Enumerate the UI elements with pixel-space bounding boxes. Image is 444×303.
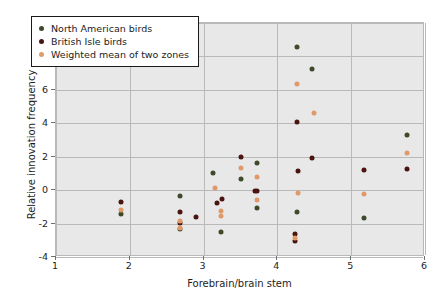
y-tick-mark	[51, 122, 55, 123]
y-tick-label: -4	[8, 251, 48, 262]
data-point-na	[254, 206, 259, 211]
data-point-wm	[212, 186, 217, 191]
x-axis-title: Forebrain/brain stem	[55, 278, 424, 289]
x-tick-mark	[203, 256, 204, 260]
gridline-horizontal	[56, 257, 423, 258]
data-point-bi	[405, 167, 410, 172]
data-point-wm	[177, 225, 182, 230]
data-point-bi	[310, 155, 315, 160]
data-point-wm	[238, 165, 243, 170]
gridline-vertical	[277, 23, 278, 255]
scatter-chart-figure: -4-20246810123456 Relative innovation fr…	[0, 0, 444, 303]
data-point-bi	[118, 200, 123, 205]
data-point-bi	[296, 169, 301, 174]
data-point-wm	[218, 208, 223, 213]
legend-item-na: North American birds	[39, 22, 189, 35]
legend-marker-icon	[39, 52, 44, 57]
data-point-na	[405, 133, 410, 138]
x-tick-label: 4	[264, 260, 288, 271]
legend-marker-icon	[39, 26, 44, 31]
data-point-bi	[194, 215, 199, 220]
data-point-wm	[362, 192, 367, 197]
gridline-horizontal	[56, 190, 423, 191]
gridline-horizontal	[56, 123, 423, 124]
data-point-na	[254, 161, 259, 166]
x-tick-label: 2	[117, 260, 141, 271]
data-point-wm	[218, 214, 223, 219]
y-tick-mark	[51, 223, 55, 224]
data-point-na	[211, 171, 216, 176]
y-tick-mark	[51, 156, 55, 157]
data-point-wm	[177, 219, 182, 224]
x-tick-label: 1	[43, 260, 67, 271]
data-point-wm	[296, 191, 301, 196]
data-point-wm	[254, 198, 259, 203]
legend-item-label: British Isle birds	[51, 35, 127, 48]
x-tick-label: 6	[412, 260, 436, 271]
data-point-wm	[118, 208, 123, 213]
gridline-vertical	[204, 23, 205, 255]
data-point-bi	[254, 189, 259, 194]
data-point-na	[218, 229, 223, 234]
data-point-bi	[177, 209, 182, 214]
gridline-vertical	[425, 23, 426, 255]
data-point-na	[362, 215, 367, 220]
legend-item-bi: British Isle birds	[39, 35, 189, 48]
data-point-bi	[214, 201, 219, 206]
legend-item-label: North American birds	[51, 22, 152, 35]
data-point-na	[294, 209, 299, 214]
data-point-bi	[362, 167, 367, 172]
data-point-bi	[294, 120, 299, 125]
gridline-horizontal	[56, 224, 423, 225]
legend: North American birdsBritish Isle birdsWe…	[31, 16, 199, 67]
data-point-na	[177, 193, 182, 198]
x-tick-mark	[129, 256, 130, 260]
x-tick-label: 3	[191, 260, 215, 271]
y-tick-mark	[51, 189, 55, 190]
x-tick-mark	[424, 256, 425, 260]
gridline-vertical	[351, 23, 352, 255]
data-point-wm	[312, 111, 317, 116]
data-point-bi	[220, 196, 225, 201]
data-point-wm	[405, 150, 410, 155]
legend-item-label: Weighted mean of two zones	[51, 48, 189, 61]
y-axis-title: Relative innovation frequency	[26, 45, 37, 245]
data-point-na	[310, 66, 315, 71]
data-point-wm	[293, 236, 298, 241]
data-point-wm	[294, 81, 299, 86]
y-tick-mark	[51, 89, 55, 90]
x-tick-mark	[276, 256, 277, 260]
data-point-na	[238, 176, 243, 181]
x-tick-label: 5	[338, 260, 362, 271]
data-point-na	[294, 45, 299, 50]
data-point-wm	[254, 175, 259, 180]
legend-marker-icon	[39, 39, 44, 44]
x-tick-mark	[55, 256, 56, 260]
gridline-horizontal	[56, 90, 423, 91]
legend-item-wm: Weighted mean of two zones	[39, 48, 189, 61]
x-tick-mark	[350, 256, 351, 260]
data-point-bi	[238, 154, 243, 159]
